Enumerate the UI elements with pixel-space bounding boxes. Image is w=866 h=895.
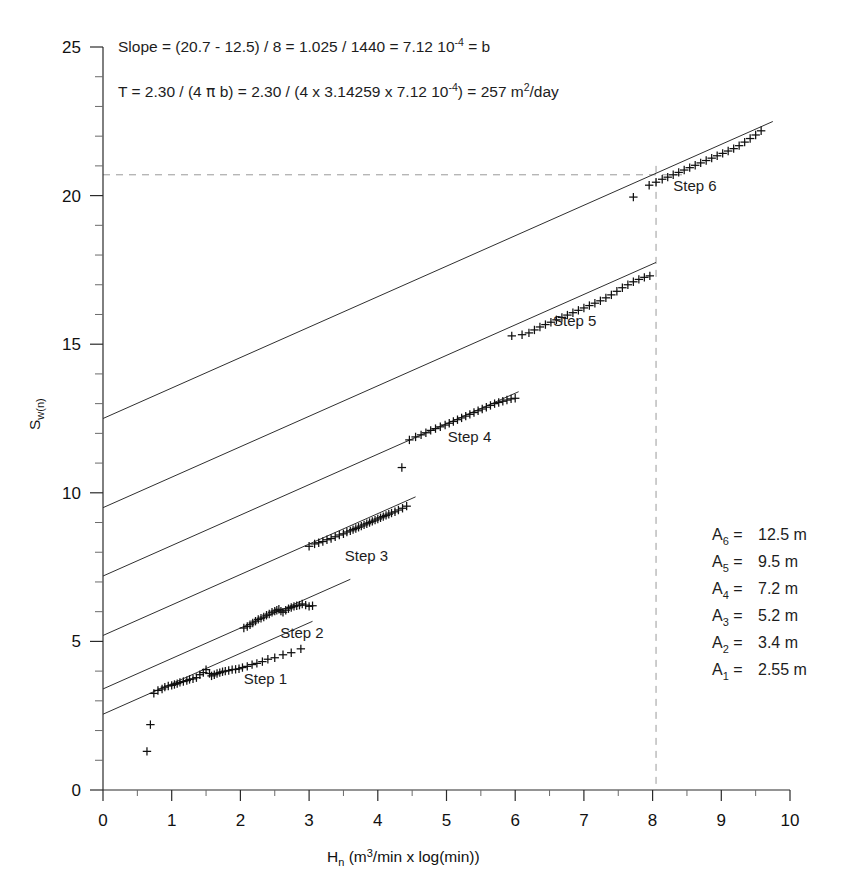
y-axis-tick-label: 15: [62, 335, 81, 354]
x-axis-tick-label: 4: [373, 811, 382, 830]
y-axis-tick-label: 25: [62, 38, 81, 57]
svg-text:T = 2.30 / (4 π b) = 2.30 / (4: T = 2.30 / (4 π b) = 2.30 / (4 x 3.14259…: [118, 81, 559, 101]
series-label: Step 2: [280, 624, 323, 641]
step-drawdown-chart: Slope = (20.7 - 12.5) / 8 = 1.025 / 1440…: [0, 0, 866, 895]
annotation-transmissivity-equation: T = 2.30 / (4 π b) = 2.30 / (4 x 3.14259…: [118, 81, 559, 101]
legend-equals: =: [729, 553, 747, 570]
x-axis-tick-label: 7: [579, 811, 588, 830]
legend-symbol: A: [712, 634, 723, 651]
y-axis-tick-label: 5: [72, 632, 81, 651]
series-label: Step 3: [345, 547, 388, 564]
y-axis-title-main: S: [26, 420, 43, 430]
legend-symbol: A: [712, 607, 723, 624]
legend-equals: =: [729, 607, 747, 624]
series-label: Step 4: [448, 428, 491, 445]
legend-equals: =: [729, 661, 747, 678]
x-axis-tick-label: 1: [167, 811, 176, 830]
svg-text:Slope = (20.7 - 12.5) / 8 = 1.: Slope = (20.7 - 12.5) / 8 = 1.025 / 1440…: [118, 36, 490, 55]
transmissivity-part1: T = 2.30 / (4: [118, 83, 206, 100]
legend-equals: =: [729, 634, 747, 651]
legend-equals: =: [729, 580, 747, 597]
transmissivity-part4: /day: [530, 83, 560, 100]
x-axis-tick-label: 2: [236, 811, 245, 830]
legend-symbol: A: [712, 580, 723, 597]
series-label: Step 1: [244, 670, 287, 687]
legend-value: 12.5 m: [758, 526, 807, 543]
legend-symbol: A: [712, 553, 723, 570]
y-axis-tick-label: 10: [62, 484, 81, 503]
x-axis-tick-label: 10: [781, 811, 800, 830]
legend-equals: =: [729, 526, 747, 543]
x-axis-title: Hn (m3/min x log(min)): [327, 847, 480, 868]
legend-value: 3.4 m: [758, 634, 798, 651]
legend-value: 9.5 m: [758, 553, 798, 570]
slope-equation-exponent: -4: [455, 36, 464, 48]
legend-symbol: A: [712, 661, 723, 678]
y-axis-tick-label: 0: [72, 781, 81, 800]
x-axis-tick-label: 9: [717, 811, 726, 830]
transmissivity-part3: ) = 257 m: [458, 83, 524, 100]
legend-value: 5.2 m: [758, 607, 798, 624]
x-axis-tick-label: 3: [304, 811, 313, 830]
y-axis-tick-label: 20: [62, 187, 81, 206]
x-axis-units-a: (m: [344, 848, 366, 865]
x-axis-tick-label: 8: [648, 811, 657, 830]
chart-background: [0, 0, 866, 895]
transmissivity-exponent: -4: [448, 81, 457, 93]
x-axis-title-main: H: [327, 848, 338, 865]
transmissivity-part2: b) = 2.30 / (4 x 3.14259 x 7.12 10: [215, 83, 448, 100]
slope-equation-part2: = b: [464, 38, 490, 55]
x-axis-units-b: /min x log(min)): [373, 848, 480, 865]
legend-value: 7.2 m: [758, 580, 798, 597]
svg-text:Hn (m3/min x log(min)): Hn (m3/min x log(min)): [327, 847, 480, 868]
annotation-slope-equation: Slope = (20.7 - 12.5) / 8 = 1.025 / 1440…: [118, 36, 490, 55]
x-axis-tick-label: 6: [510, 811, 519, 830]
series-label: Step 5: [553, 312, 596, 329]
pi-symbol: π: [206, 83, 215, 101]
legend-value: 2.55 m: [758, 661, 807, 678]
slope-equation-part1: Slope = (20.7 - 12.5) / 8 = 1.025 / 1440…: [118, 38, 455, 55]
y-axis-title-sub: w(n): [34, 398, 46, 420]
series-label: Step 6: [673, 177, 716, 194]
legend-symbol: A: [712, 526, 723, 543]
x-axis-tick-label: 0: [98, 811, 107, 830]
x-axis-tick-label: 5: [442, 811, 451, 830]
